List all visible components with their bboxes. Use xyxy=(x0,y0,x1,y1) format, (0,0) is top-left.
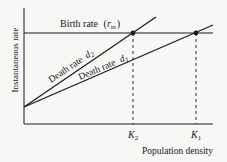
k1-equilibrium-point xyxy=(194,31,199,36)
density-dependence-diagram: Birth rate (rm) Death rate d2 Death rate… xyxy=(0,0,227,162)
x-axis-label: Population density xyxy=(142,146,213,156)
k1-label: K1 xyxy=(190,129,202,142)
death-rate-d2-line xyxy=(24,17,156,107)
k2-label: K2 xyxy=(127,129,139,142)
death-rate-d1-line xyxy=(24,25,213,107)
birth-rate-label: Birth rate (rm) xyxy=(60,18,120,31)
y-axis-label: Instantaneous rate xyxy=(10,27,20,92)
k2-equilibrium-point xyxy=(131,31,136,36)
